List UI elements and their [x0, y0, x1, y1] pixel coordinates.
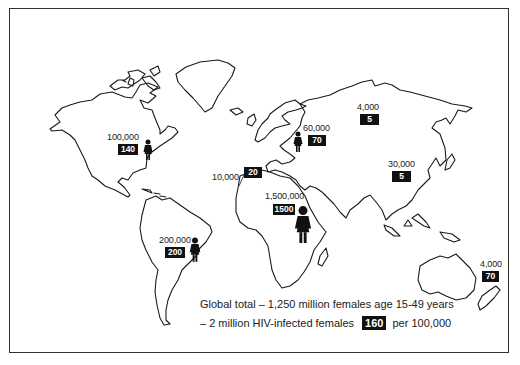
latin-america-rate: 200: [165, 247, 185, 258]
global-rate-box: 160: [362, 316, 386, 330]
new-guinea-outline: [440, 232, 460, 242]
middle-east-rate: 20: [244, 167, 262, 178]
iceland-outline: [230, 108, 243, 115]
footer-line-2: – 2 million HIV-infected females160per 1…: [200, 316, 451, 330]
australasia-rate: 70: [482, 271, 499, 282]
europe-count: 60,000: [303, 123, 330, 133]
footer-suffix: per 100,000: [392, 317, 451, 329]
sri-lanka-outline: [404, 220, 412, 226]
world-map: [0, 0, 520, 365]
middle-east-count: 10,000: [212, 172, 239, 182]
east-asia-rate: 5: [392, 171, 411, 182]
footer-line-1: Global total – 1,250 million females age…: [200, 298, 454, 310]
north-america-count: 100,000: [107, 132, 139, 142]
caribbean-islands: [142, 189, 166, 197]
central-asia-rate: 5: [360, 114, 379, 125]
uk-outline: [247, 114, 256, 126]
africa-outline: [236, 170, 326, 288]
footer-prefix: – 2 million HIV-infected females: [200, 317, 354, 329]
female-figure-icon: [189, 237, 201, 263]
southeast-asia-islands: [384, 214, 430, 236]
australia-outline: [418, 254, 476, 300]
new-zealand-outline: [478, 286, 500, 310]
central-asia-count: 4,000: [357, 102, 379, 112]
europe-rate: 70: [308, 135, 326, 146]
madagascar-outline: [318, 248, 328, 266]
latin-america-count: 200,000: [159, 235, 191, 245]
arctic-islands: [110, 66, 160, 90]
female-figure-icon: [143, 139, 153, 161]
female-figure-icon: [294, 205, 312, 245]
east-asia-count: 30,000: [388, 159, 415, 169]
north-america-rate: 140: [118, 144, 138, 155]
australasia-count: 4,000: [480, 259, 502, 269]
female-figure-icon: [293, 131, 303, 153]
africa-rate: 1500: [273, 204, 295, 215]
japan-outline: [445, 154, 455, 170]
africa-count: 1,500,000: [265, 191, 304, 201]
greenland-outline: [176, 60, 235, 112]
